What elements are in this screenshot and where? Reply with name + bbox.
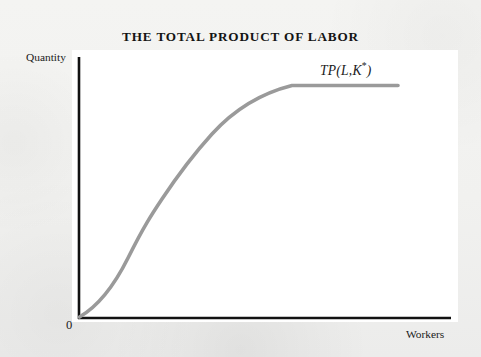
curve-label: TP(L,K*) [320,60,371,79]
chart-canvas [0,0,481,357]
curve-label-close: ) [367,63,372,78]
origin-label: 0 [66,318,72,333]
curve-label-fn: TP [320,63,336,78]
figure-page: THE TOTAL PRODUCT OF LABOR Quantity Work… [0,0,481,357]
y-axis-label: Quantity [26,51,66,63]
total-product-curve [80,86,399,318]
curve-label-arg2: K [352,63,361,78]
x-axis-label: Workers [406,328,444,340]
curve-label-arg1: L [341,63,349,78]
